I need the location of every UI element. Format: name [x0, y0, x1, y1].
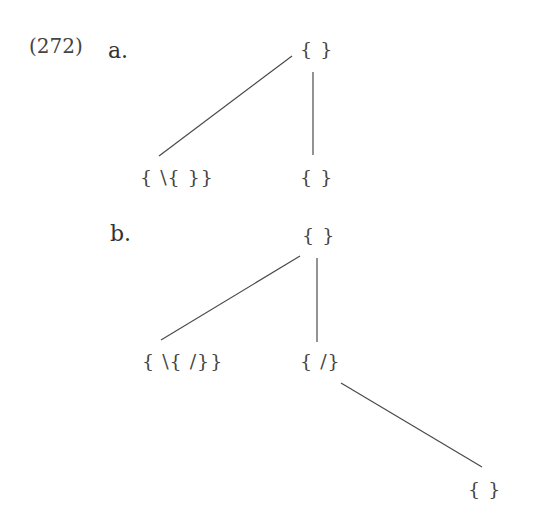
tree-a-left-node: { \{ }}: [140, 168, 214, 187]
tree-b-root-node: { }: [302, 226, 335, 245]
edge-a-root-left: [159, 56, 292, 156]
tree-a-root-node: { }: [300, 40, 333, 59]
tree-b-mid-node: { /}: [300, 352, 341, 371]
edge-b-root-left: [161, 256, 300, 340]
tree-edges: [0, 0, 533, 521]
tree-b-left-node: { \{ /}}: [142, 352, 223, 371]
tree-b-leaf-node: { }: [468, 480, 501, 499]
edge-b-mid-leaf: [341, 383, 482, 467]
tree-a-right-node: { }: [300, 168, 333, 187]
